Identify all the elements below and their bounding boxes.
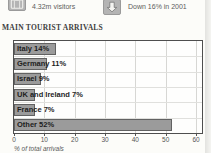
bar-label: Germany 11% [17, 58, 66, 70]
bar-label: France 7% [17, 104, 55, 116]
tick-label: 0 [12, 136, 16, 143]
visitors-count-label: 4.32m visitors [32, 3, 75, 10]
row-separator [14, 56, 202, 57]
tick-label: 60 [192, 136, 199, 143]
tick-label: 40 [132, 136, 139, 143]
bar-label: UK and Ireland 7% [17, 89, 83, 101]
trend-label: Down 16% in 2001 [128, 3, 187, 10]
page-title: MAIN TOURIST ARRIVALS [2, 23, 103, 32]
row-separator [14, 102, 202, 103]
tick-label: 30 [101, 136, 108, 143]
tick-label: 10 [41, 136, 48, 143]
tick-label: 50 [162, 136, 169, 143]
down-arrow-icon [103, 0, 121, 15]
bar-label: Italy 14% [17, 43, 49, 55]
page-edge-shadow [205, 0, 211, 153]
visitors-suitcase-icon [8, 0, 26, 11]
bar-label: Other 52% [17, 119, 54, 131]
bar-chart: Italy 14%Germany 11%Israel 9%UK and Irel… [13, 40, 203, 134]
x-axis-caption: % of total arrivals [14, 145, 64, 152]
tick-label: 20 [71, 136, 78, 143]
bar-label: Israel 9% [17, 73, 50, 85]
